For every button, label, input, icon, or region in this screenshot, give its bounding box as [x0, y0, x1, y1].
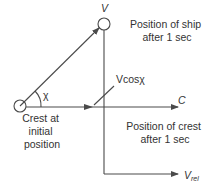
vcos-arrowhead — [84, 104, 93, 110]
crest-after-text: Position of crest after 1 sec — [126, 120, 204, 145]
ship-after-text: Position of ship after 1 sec — [130, 18, 204, 43]
crest-initial-line-3: position — [24, 138, 60, 150]
relative-velocity-sub: rel — [191, 175, 199, 182]
crest-initial-line-2: initial — [29, 125, 53, 137]
angle-arc — [35, 91, 41, 107]
ship-after-line-2: after 1 sec — [142, 31, 191, 43]
ship-velocity-arrow — [20, 28, 99, 106]
crest-initial-line-1: Crest at — [22, 112, 59, 124]
ship-after-circle — [98, 18, 110, 30]
angle-label: χ — [43, 89, 49, 101]
crest-after-line-2: after 1 sec — [140, 133, 189, 145]
component-label: Vcosχ — [116, 73, 145, 85]
ship-velocity-label: V — [101, 2, 109, 14]
ship-wave-velocity-diagram: V χ Vcosχ C Vrel Crest at initial positi… — [0, 0, 216, 188]
crest-after-line-1: Position of crest — [126, 120, 201, 132]
relative-velocity-label: Vrel — [184, 169, 199, 182]
ship-after-line-1: Position of ship — [130, 18, 201, 30]
celerity-label: C — [178, 94, 186, 106]
crest-initial-text: Crest at initial position — [22, 112, 62, 150]
